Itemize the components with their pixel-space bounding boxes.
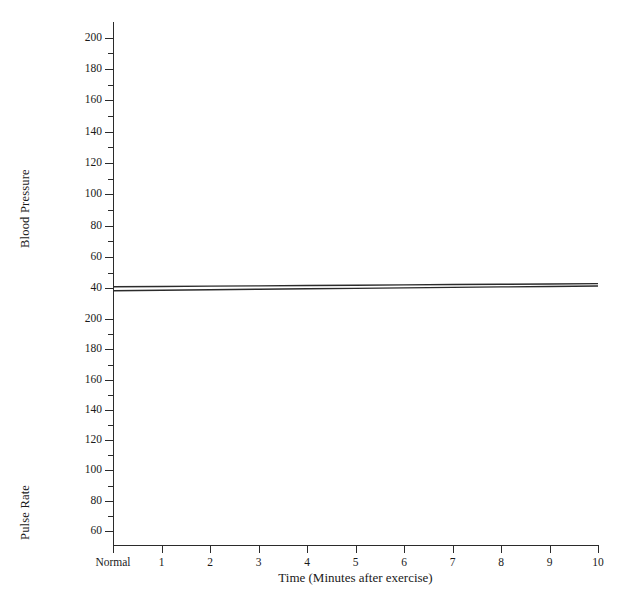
x-tick-label-3: 3 — [256, 556, 262, 568]
x-tick-normal — [113, 545, 114, 553]
y-tick-label-pulse-rate-160: 160 — [58, 374, 102, 386]
y-tick-label-blood-pressure-140: 140 — [58, 126, 102, 138]
y-axis-label-blood-pressure: Blood Pressure — [18, 88, 33, 248]
y-tick-label-pulse-rate-80: 80 — [58, 495, 102, 507]
x-tick-2 — [210, 545, 211, 553]
x-axis-title: Time (Minutes after exercise) — [113, 570, 598, 586]
x-tick-label-8: 8 — [498, 556, 504, 568]
y-tick-label-blood-pressure-80: 80 — [58, 220, 102, 232]
x-tick-label-5: 5 — [353, 556, 359, 568]
y-tick-label-blood-pressure-100: 100 — [58, 188, 102, 200]
x-tick-label-6: 6 — [401, 556, 407, 568]
y-axis-label-pulse-rate: Pulse Rate — [18, 400, 33, 540]
y-tick-label-blood-pressure-120: 120 — [58, 157, 102, 169]
y-tick-label-blood-pressure-40: 40 — [58, 282, 102, 294]
y-tick-label-pulse-rate-140: 140 — [58, 404, 102, 416]
y-tick-label-blood-pressure-160: 160 — [58, 94, 102, 106]
x-tick-label-1: 1 — [159, 556, 165, 568]
x-tick-label-9: 9 — [547, 556, 553, 568]
x-tick-9 — [550, 545, 551, 553]
y-tick-label-blood-pressure-200: 200 — [58, 32, 102, 44]
x-tick-10 — [598, 545, 599, 553]
x-tick-label-10: 10 — [592, 556, 604, 568]
y-tick-label-blood-pressure-180: 180 — [58, 63, 102, 75]
x-tick-4 — [307, 545, 308, 553]
y-tick-label-pulse-rate-120: 120 — [58, 434, 102, 446]
x-tick-8 — [501, 545, 502, 553]
x-tick-5 — [356, 545, 357, 553]
y-tick-label-pulse-rate-60: 60 — [58, 525, 102, 537]
y-tick-label-pulse-rate-100: 100 — [58, 464, 102, 476]
plot-lines-pulse-rate — [113, 304, 598, 546]
x-tick-1 — [162, 545, 163, 553]
x-tick-7 — [453, 545, 454, 553]
plot-lines-blood-pressure — [113, 22, 598, 304]
x-tick-3 — [259, 545, 260, 553]
chart-figure: Blood Pressure Pulse Rate 20018016014012… — [0, 0, 622, 600]
x-tick-label-normal: Normal — [95, 556, 130, 568]
y-tick-label-pulse-rate-200: 200 — [58, 313, 102, 325]
x-tick-6 — [404, 545, 405, 553]
x-tick-label-4: 4 — [304, 556, 310, 568]
y-tick-label-pulse-rate-180: 180 — [58, 343, 102, 355]
y-tick-label-blood-pressure-60: 60 — [58, 251, 102, 263]
x-tick-label-2: 2 — [207, 556, 213, 568]
x-tick-label-7: 7 — [450, 556, 456, 568]
